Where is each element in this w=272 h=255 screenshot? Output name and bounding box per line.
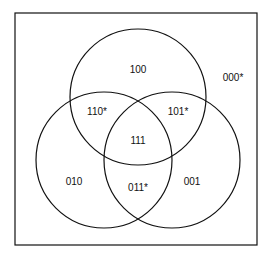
region-label-101: 101* [168,106,189,117]
region-label-001: 001 [184,176,201,187]
region-label-011: 011* [128,182,148,193]
universe-rectangle [15,13,257,245]
region-label-010: 010 [66,176,83,187]
region-label-111: 111 [130,135,146,146]
venn-diagram: 100 000* 110* 101* 111 010 011* 001 [0,0,272,255]
region-label-100: 100 [130,64,147,75]
region-label-110: 110* [87,106,107,117]
region-label-000: 000* [223,72,244,83]
